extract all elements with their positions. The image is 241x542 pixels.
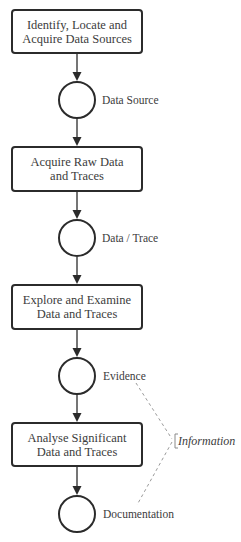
- output-node-data-source: [58, 81, 96, 119]
- step-label-line2: Acquire Data Sources: [22, 32, 132, 46]
- step-label-line1: Analyse Significant: [28, 431, 127, 445]
- step-explore-examine: Explore and Examine Data and Traces: [11, 284, 143, 330]
- step-label-line1: Explore and Examine: [23, 293, 131, 307]
- arrow-output3-to-step4: [73, 395, 82, 422]
- output-node-evidence: [58, 357, 96, 395]
- arrow-step4-to-output4: [73, 467, 82, 495]
- arrow-output1-to-step2: [73, 119, 82, 146]
- arrow-output2-to-step3: [73, 257, 82, 284]
- step-label-line2: and Traces: [30, 169, 123, 183]
- step-label-line2: Data and Traces: [28, 445, 127, 459]
- step-analyse-significant: Analyse Significant Data and Traces: [11, 422, 143, 467]
- arrow-step3-to-output3: [73, 330, 82, 357]
- output-label-evidence: Evidence: [103, 369, 146, 383]
- step-acquire-raw-data: Acquire Raw Data and Traces: [11, 146, 143, 192]
- output-node-data-trace: [58, 219, 96, 257]
- information-label: Information: [178, 434, 235, 448]
- output-label-documentation: Documentation: [103, 507, 174, 521]
- output-label-data-trace: Data / Trace: [102, 231, 158, 245]
- output-node-documentation: [58, 495, 96, 533]
- arrow-step2-to-output2: [73, 192, 82, 219]
- arrow-step1-to-output1: [73, 53, 82, 81]
- step-identify-locate-acquire: Identify, Locate and Acquire Data Source…: [11, 9, 143, 54]
- step-label-line1: Identify, Locate and: [22, 18, 132, 32]
- output-label-data-source: Data Source: [102, 93, 159, 107]
- step-label-line2: Data and Traces: [23, 307, 131, 321]
- step-label-line1: Acquire Raw Data: [30, 155, 123, 169]
